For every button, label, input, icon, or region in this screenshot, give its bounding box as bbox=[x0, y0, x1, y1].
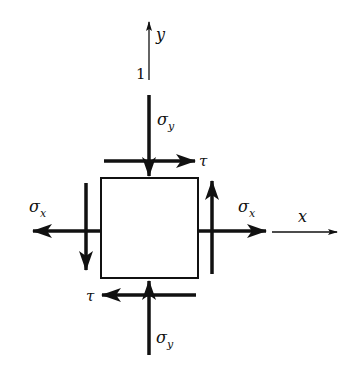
sigma-x-left: σx bbox=[29, 197, 101, 231]
origin-label: 1 bbox=[136, 65, 146, 83]
tau-bottom: τ bbox=[86, 287, 196, 305]
sigma-y-bottom: σy bbox=[149, 281, 174, 355]
y-axis: y 1 bbox=[136, 22, 166, 83]
tau-top: τ bbox=[104, 152, 208, 170]
x-axis: x bbox=[272, 207, 337, 232]
stress-element-box bbox=[101, 178, 198, 278]
sigma-x-left-subscript: x bbox=[40, 207, 47, 220]
tau-bottom-label: τ bbox=[86, 287, 95, 305]
svg-text:σx: σx bbox=[238, 197, 256, 220]
sigma-y-top-subscript: y bbox=[167, 120, 175, 133]
svg-text:σy: σy bbox=[156, 328, 174, 351]
sigma-x-right-subscript: x bbox=[249, 207, 256, 220]
sigma-x-right: σx bbox=[198, 197, 266, 231]
svg-text:σx: σx bbox=[29, 197, 47, 220]
y-axis-label: y bbox=[155, 25, 166, 44]
stress-element-diagram: y 1 x σy τ σx σx τ σy bbox=[0, 0, 362, 376]
svg-text:σy: σy bbox=[157, 110, 175, 133]
x-axis-label: x bbox=[298, 207, 307, 226]
sigma-y-bottom-subscript: y bbox=[166, 338, 174, 351]
tau-top-label: τ bbox=[199, 152, 208, 170]
sigma-y-top: σy bbox=[149, 95, 175, 176]
